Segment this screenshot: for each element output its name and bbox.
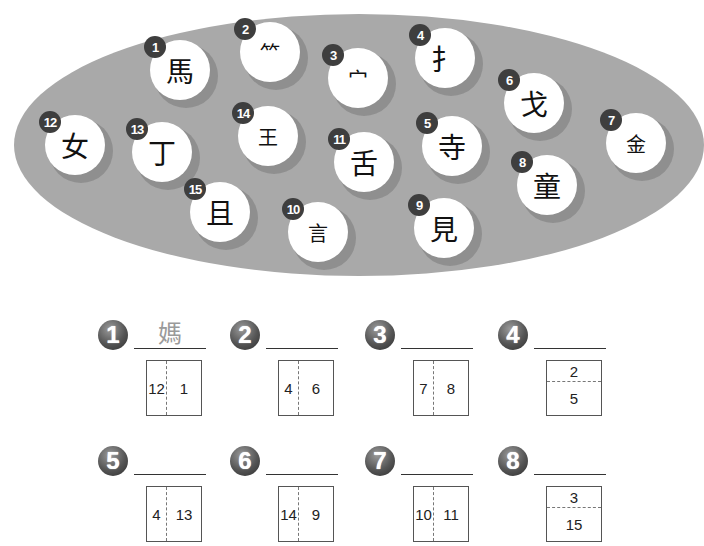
component-bubble: 戈6 <box>504 73 566 135</box>
box-top-part: 3 <box>547 487 601 508</box>
answer-line <box>134 474 206 475</box>
component-bubble: 見9 <box>414 198 476 260</box>
component-bubble: 言10 <box>288 202 350 264</box>
component-number-badge: 1 <box>144 36 166 58</box>
component-number-badge: 3 <box>322 44 344 66</box>
component-number-badge: 11 <box>328 128 350 150</box>
composition-box: 78 <box>413 360 469 416</box>
composition-box: 46 <box>278 360 334 416</box>
box-left-part: 10 <box>414 487 434 541</box>
component-bubble: 扌4 <box>415 28 477 90</box>
exercise-item: 246 <box>230 320 350 430</box>
component-number-badge: 5 <box>416 112 438 134</box>
answer-line <box>401 348 473 349</box>
component-bubble: 金7 <box>606 113 668 175</box>
exercise-item: 71011 <box>365 446 485 546</box>
composition-box: 121 <box>146 360 202 416</box>
component-bubble: 宀3 <box>328 48 390 110</box>
exercise-item: 378 <box>365 320 485 430</box>
composition-box: 315 <box>546 486 602 542</box>
answer-line <box>534 474 606 475</box>
box-left-part: 4 <box>279 361 299 415</box>
box-left-part: 14 <box>279 487 299 541</box>
exercise-number-icon: 5 <box>98 446 128 476</box>
component-bubble: 且15 <box>190 182 252 244</box>
component-bubble: 舌11 <box>334 132 396 194</box>
component-bubble: 女12 <box>45 115 107 177</box>
component-number-badge: 10 <box>282 198 304 220</box>
component-bubble: 寺5 <box>422 116 484 178</box>
exercise-number-icon: 8 <box>498 446 528 476</box>
exercise-item: 425 <box>498 320 618 430</box>
component-number-badge: 9 <box>408 194 430 216</box>
box-right-part: 9 <box>299 487 333 541</box>
exercise-number-icon: 7 <box>365 446 395 476</box>
exercise-item: 5413 <box>98 446 218 546</box>
component-number-badge: 7 <box>600 109 622 131</box>
box-right-part: 11 <box>434 487 468 541</box>
component-number-badge: 2 <box>234 18 256 40</box>
box-bottom-part: 5 <box>547 382 601 415</box>
exercise-item: 8315 <box>498 446 618 546</box>
composition-box: 25 <box>546 360 602 416</box>
answer-line <box>134 348 206 349</box>
answer-line <box>401 474 473 475</box>
answer-line <box>266 474 338 475</box>
answer-line <box>266 348 338 349</box>
component-bubble: 馬1 <box>150 40 212 102</box>
composition-box: 149 <box>278 486 334 542</box>
box-bottom-part: 15 <box>547 508 601 541</box>
exercise-item: 1媽121 <box>98 320 218 430</box>
answer-field[interactable]: 媽 <box>134 314 206 349</box>
composition-box: 1011 <box>413 486 469 542</box>
component-bubble: 童8 <box>517 155 579 217</box>
box-right-part: 13 <box>167 487 201 541</box>
exercise-number-icon: 4 <box>498 320 528 350</box>
box-right-part: 1 <box>167 361 201 415</box>
component-number-badge: 15 <box>184 178 206 200</box>
component-number-badge: 8 <box>511 151 533 173</box>
box-left-part: 4 <box>147 487 167 541</box>
exercise-number-icon: 1 <box>98 320 128 350</box>
box-top-part: 2 <box>547 361 601 382</box>
component-number-badge: 12 <box>39 111 61 133</box>
box-left-part: 7 <box>414 361 434 415</box>
component-number-badge: 14 <box>232 102 254 124</box>
component-bubble: ⺮2 <box>240 22 302 84</box>
box-right-part: 8 <box>434 361 468 415</box>
composition-box: 413 <box>146 486 202 542</box>
exercise-number-icon: 2 <box>230 320 260 350</box>
component-number-badge: 13 <box>126 118 148 140</box>
box-left-part: 12 <box>147 361 167 415</box>
component-number-badge: 4 <box>409 24 431 46</box>
component-number-badge: 6 <box>498 69 520 91</box>
exercise-number-icon: 6 <box>230 446 260 476</box>
component-bubble: 丁13 <box>132 122 194 184</box>
answer-line <box>534 348 606 349</box>
box-right-part: 6 <box>299 361 333 415</box>
component-bubble: 王14 <box>238 106 300 168</box>
exercise-item: 6149 <box>230 446 350 546</box>
exercise-number-icon: 3 <box>365 320 395 350</box>
